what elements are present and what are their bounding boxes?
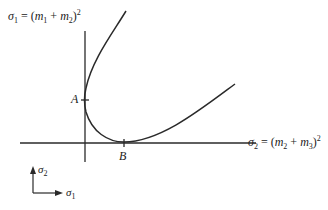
point-a-label: A: [71, 92, 78, 107]
diagram-canvas: [0, 0, 328, 210]
exp: 2: [317, 134, 321, 143]
point-b-label: B: [119, 149, 126, 164]
legend-right-label: σ1: [66, 186, 75, 201]
arrow-right-icon: [55, 190, 63, 196]
eq: = (: [18, 9, 35, 23]
eq: = (: [258, 135, 275, 149]
exp: 2: [77, 8, 81, 17]
x-axis-label: σ2 = (m2 + m3)2: [248, 134, 321, 151]
m: m: [300, 135, 309, 149]
sub: 2: [43, 169, 47, 178]
y-axis-label: σ1 = (m1 + m2)2: [8, 8, 81, 25]
m: m: [60, 9, 69, 23]
plus: +: [287, 135, 300, 149]
arrow-up-icon: [30, 166, 36, 174]
plus: +: [47, 9, 60, 23]
legend-up-label: σ2: [38, 163, 47, 178]
curve: [85, 11, 236, 142]
sub: 1: [71, 192, 75, 201]
